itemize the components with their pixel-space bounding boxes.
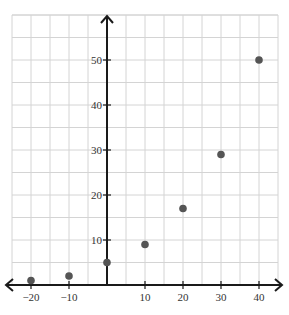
data-point [103, 259, 111, 267]
data-point [27, 277, 35, 285]
scatter-chart: −20−10102030401020304050 [0, 0, 289, 315]
data-point [217, 151, 225, 159]
tick-labels: −20−10102030401020304050 [22, 54, 265, 303]
y-tick-label: 10 [91, 234, 103, 246]
x-tick-label: 40 [254, 291, 266, 303]
y-tick-label: 50 [91, 54, 103, 66]
y-tick-label: 40 [91, 99, 103, 111]
x-tick-label: 30 [216, 291, 228, 303]
x-tick-label: 20 [178, 291, 190, 303]
axes [6, 16, 282, 291]
y-tick-label: 20 [91, 189, 103, 201]
x-tick-label: −20 [22, 291, 40, 303]
x-tick-label: 10 [140, 291, 152, 303]
data-point [179, 205, 187, 213]
data-point [255, 56, 263, 64]
y-tick-label: 30 [91, 144, 103, 156]
data-point [65, 272, 73, 280]
x-tick-label: −10 [60, 291, 78, 303]
data-point [141, 241, 149, 249]
